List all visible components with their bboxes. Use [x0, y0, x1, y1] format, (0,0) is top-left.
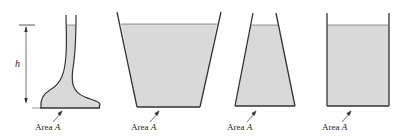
area-label-rectangular: Area A	[322, 122, 347, 132]
area-label-wide-top: Area A	[131, 122, 156, 132]
liquid-rectangular	[327, 25, 389, 106]
container-narrow-top	[235, 13, 295, 106]
container-rectangular	[327, 13, 389, 106]
area-pointer-arrows	[53, 111, 351, 122]
hydrostatic-containers-figure	[0, 0, 405, 137]
container-irregular	[40, 15, 100, 108]
container-wide-top	[117, 12, 221, 107]
height-label: h	[15, 58, 20, 69]
liquid-narrow-top	[235, 25, 295, 106]
area-label-irregular: Area A	[35, 122, 60, 132]
liquid-irregular	[41, 25, 100, 108]
height-dimension	[19, 25, 40, 108]
area-label-narrow-top: Area A	[227, 122, 252, 132]
